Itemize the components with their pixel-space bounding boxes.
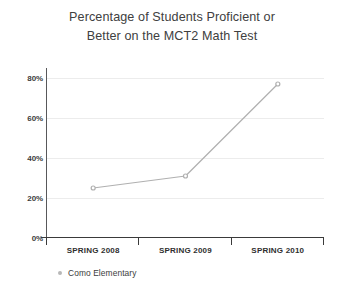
y-axis-tick-label-20: 20% (3, 194, 43, 203)
x-axis-tick-0 (46, 238, 47, 245)
x-axis-label-spring-2010: SPRING 2010 (232, 246, 324, 262)
x-axis-label-spring-2009: SPRING 2009 (139, 246, 231, 262)
chart-legend: Como Elementary (58, 268, 137, 278)
y-axis-tick-label-0: 0% (3, 234, 43, 243)
y-axis-tick-label-40: 40% (3, 154, 43, 163)
legend-dot-marker (58, 271, 62, 275)
data-point-spring-2008 (91, 186, 95, 190)
line-chart: Percentage of Students Proficient or Bet… (0, 0, 344, 293)
series-line (93, 84, 278, 188)
x-axis-labels: SPRING 2008 SPRING 2009 SPRING 2010 (47, 246, 324, 262)
x-axis-label-spring-2008: SPRING 2008 (47, 246, 139, 262)
x-axis-tick-3 (323, 238, 324, 245)
x-axis-line (46, 237, 324, 238)
y-axis-tick-label-80: 80% (3, 74, 43, 83)
series-como-elementary (47, 70, 324, 238)
x-axis-tick-1 (138, 238, 139, 245)
data-point-spring-2010 (276, 82, 280, 86)
data-point-spring-2009 (184, 174, 188, 178)
legend-label-como-elementary: Como Elementary (68, 268, 137, 278)
series-markers (91, 82, 280, 190)
y-axis-labels: 0% 20% 40% 60% 80% (0, 0, 43, 293)
plot-area (47, 70, 324, 238)
chart-title-line-1: Percentage of Students Proficient or (0, 8, 344, 27)
y-axis-line (46, 68, 47, 239)
chart-title-line-2: Better on the MCT2 Math Test (0, 27, 344, 46)
x-axis-tick-2 (231, 238, 232, 245)
chart-title: Percentage of Students Proficient or Bet… (0, 8, 344, 46)
y-axis-tick-label-60: 60% (3, 114, 43, 123)
